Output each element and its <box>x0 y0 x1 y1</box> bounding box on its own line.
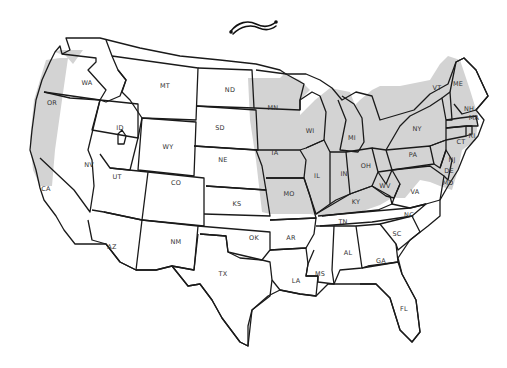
us-states-map: WAORCAIDNVMTWYUTCOAZNMNDSDNEKSOKTXMNIAMO… <box>0 0 507 368</box>
state-label-ms: MS <box>315 270 325 278</box>
state-label-al: AL <box>344 249 353 257</box>
state-label-mo: MO <box>283 190 294 198</box>
state-label-ar: AR <box>286 234 296 242</box>
state-label-fl: FL <box>400 305 408 313</box>
swash-ornament-icon <box>229 20 278 34</box>
state-label-ca: CA <box>41 185 51 193</box>
state-label-la: LA <box>292 277 301 285</box>
state-label-nj: NJ <box>448 156 455 164</box>
state-label-mt: MT <box>160 82 170 90</box>
state-label-wy: WY <box>163 143 174 151</box>
state-label-oh: OH <box>361 162 371 170</box>
state-label-de: DE <box>444 167 454 175</box>
state-label-in: IN <box>340 170 347 178</box>
state-label-ga: GA <box>376 257 386 265</box>
state-label-mi: MI <box>348 134 356 142</box>
state-label-ia: IA <box>272 149 279 157</box>
state-label-nd: ND <box>225 86 235 94</box>
state-label-co: CO <box>171 179 181 187</box>
state-label-ct: CT <box>457 138 466 146</box>
state-label-nv: NV <box>84 161 94 169</box>
state-label-ne: NE <box>218 156 227 164</box>
state-label-tn: TN <box>337 218 347 226</box>
state-label-wa: WA <box>82 79 93 87</box>
state-label-wv: WV <box>379 182 391 190</box>
state-label-sd: SD <box>215 124 225 132</box>
state-label-nc: NC <box>404 211 414 219</box>
state-label-mn: MN <box>268 104 279 112</box>
state-label-ks: KS <box>233 200 242 208</box>
state-label-md: MD <box>442 179 453 187</box>
state-label-ri: RI <box>469 132 476 140</box>
state-label-ut: UT <box>112 173 121 181</box>
state-label-az: AZ <box>107 243 117 251</box>
state-label-il: IL <box>314 172 320 180</box>
state-label-nm: NM <box>171 238 182 246</box>
state-label-ny: NY <box>412 125 421 133</box>
state-label-ok: OK <box>249 234 259 242</box>
state-label-me: ME <box>453 80 463 88</box>
state-label-wi: WI <box>306 127 315 135</box>
state-label-or: OR <box>47 99 57 107</box>
state-label-nh: NH <box>464 105 474 113</box>
state-label-vt: VT <box>433 84 442 92</box>
state-label-id: ID <box>116 124 123 132</box>
state-label-ma: MA <box>469 114 480 122</box>
state-label-pa: PA <box>409 151 418 159</box>
state-label-tx: TX <box>218 270 228 278</box>
state-label-ky: KY <box>352 198 360 206</box>
state-label-sc: SC <box>392 230 401 238</box>
state-label-va: VA <box>411 188 420 196</box>
